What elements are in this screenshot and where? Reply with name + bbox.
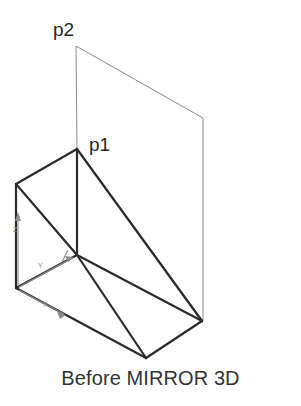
wedge-edge-back-diagonal xyxy=(16,184,77,255)
ucs-axis-y-shaft xyxy=(19,258,72,287)
ucs-axis-label-y: Y xyxy=(38,262,43,269)
wedge-edge-front-diagonal xyxy=(77,255,146,358)
mirror-plane xyxy=(76,46,203,321)
mirror-plane-outline xyxy=(76,46,203,321)
figure-before-mirror-3d: p2 p1 Z Y X Before MIRROR 3D xyxy=(0,0,301,406)
figure-caption: Before MIRROR 3D xyxy=(0,368,301,388)
wedge-edge-base-right xyxy=(146,321,202,358)
ucs-axis-label-x: X xyxy=(43,301,48,308)
ucs-axis-x-shaft xyxy=(19,290,64,314)
wedge-edge-slope-mid xyxy=(77,255,202,321)
ucs-axis-label-z: Z xyxy=(13,226,17,233)
wedge-edge-slope-top xyxy=(77,149,202,321)
wedge-solid xyxy=(16,149,202,358)
point-label-p2: p2 xyxy=(53,20,74,39)
cad-drawing-canvas xyxy=(0,0,301,406)
point-label-p1: p1 xyxy=(89,135,110,154)
wedge-edge-top-back xyxy=(16,149,77,184)
